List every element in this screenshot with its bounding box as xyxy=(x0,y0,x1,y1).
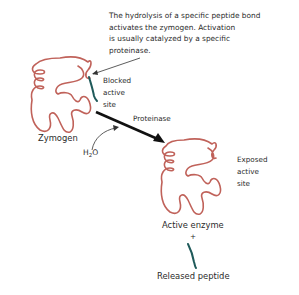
leader-arrowhead-icon xyxy=(92,70,98,75)
caption-leader-line xyxy=(93,58,140,74)
active-enzyme-label: Active enzyme xyxy=(162,220,224,232)
released-peptide-label: Released peptide xyxy=(157,271,230,283)
exposed-site-label-line: active xyxy=(237,166,267,178)
caption-text: The hydrolysis of a specific peptide bon… xyxy=(109,10,260,56)
water-arrowhead-icon xyxy=(113,125,119,131)
blocking-peptide xyxy=(89,77,97,101)
exposed-site-label-line: Exposed xyxy=(237,154,267,166)
proteinase-label: Proteinase xyxy=(133,113,171,125)
active-enzyme-chain xyxy=(161,139,220,215)
caption-line: activates the zymogen. Activation xyxy=(109,22,260,34)
water-label: H2O xyxy=(83,147,98,162)
caption-line: proteinase. xyxy=(109,45,260,57)
caption-line: is usually catalyzed by a specific xyxy=(109,33,260,45)
water-o: O xyxy=(92,148,98,157)
exposed-site-label: Exposed active site xyxy=(237,154,267,190)
zymogen-label: Zymogen xyxy=(38,133,78,145)
blocked-site-label-line: site xyxy=(103,99,131,111)
blocked-site-label: Blocked active site xyxy=(103,75,131,111)
caption-line: The hydrolysis of a specific peptide bon… xyxy=(109,10,260,22)
blocked-site-label-line: active xyxy=(103,87,131,99)
released-peptide xyxy=(188,244,196,268)
blocked-site-label-line: Blocked xyxy=(103,75,131,87)
zymogen-chain xyxy=(31,57,91,133)
plus-sign: + xyxy=(190,231,196,243)
exposed-site-label-line: site xyxy=(237,178,267,190)
